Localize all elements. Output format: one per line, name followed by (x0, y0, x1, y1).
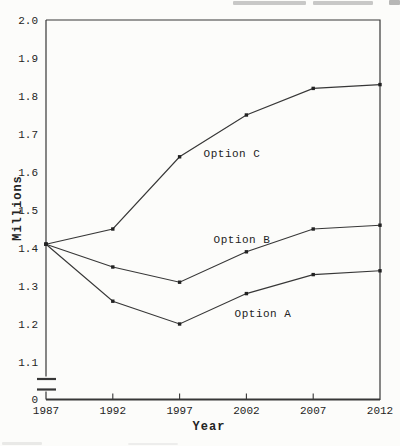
x-tick-label-2012: 2012 (367, 405, 393, 417)
series-point-option-a-2007 (312, 273, 315, 276)
series-point-option-c-1997 (178, 155, 181, 158)
y-axis-title: Millions (11, 175, 25, 241)
series-point-option-a-2012 (378, 269, 381, 272)
y-tick-label-2.0: 2.0 (18, 15, 38, 27)
series-point-option-b-2007 (312, 227, 315, 230)
y-tick-label-1.2: 1.2 (18, 319, 38, 331)
series-line-option-c (46, 85, 380, 245)
x-tick-label-1997: 1997 (166, 405, 192, 417)
y-tick-label-1.9: 1.9 (18, 53, 38, 65)
series-point-option-b-1997 (178, 281, 181, 284)
x-tick-label-2007: 2007 (300, 405, 326, 417)
series-point-option-a-1987 (44, 243, 47, 246)
y-tick-label-1.4: 1.4 (18, 243, 38, 255)
y-tick-label-1.1: 1.1 (18, 357, 38, 369)
x-tick-label-1992: 1992 (100, 405, 126, 417)
y-tick-label-1.3: 1.3 (18, 281, 38, 293)
y-tick-label-1.7: 1.7 (18, 129, 38, 141)
x-tick-label-2002: 2002 (233, 405, 259, 417)
series-point-option-c-2012 (378, 83, 381, 86)
series-point-option-a-2002 (245, 292, 248, 295)
series-point-option-b-2012 (378, 224, 381, 227)
series-point-option-c-1992 (111, 227, 114, 230)
series-point-option-a-1997 (178, 322, 181, 325)
plot-frame (46, 20, 380, 400)
series-point-option-c-2007 (312, 87, 315, 90)
population-projection-line-chart: 2.01.91.81.71.61.51.41.31.21.10198719921… (0, 0, 400, 446)
series-point-option-a-1992 (111, 300, 114, 303)
series-label-option-b: Option B (214, 234, 271, 246)
y-tick-label-0: 0 (31, 394, 38, 406)
series-point-option-b-1992 (111, 265, 114, 268)
series-label-option-c: Option C (204, 148, 261, 160)
series-point-option-c-2002 (245, 113, 248, 116)
series-line-option-a (46, 244, 380, 324)
x-tick-label-1987: 1987 (33, 405, 59, 417)
x-axis-title: Year (193, 420, 226, 434)
series-point-option-b-2002 (245, 250, 248, 253)
series-label-option-a: Option A (235, 308, 292, 320)
scanned-figure-page: 2.01.91.81.71.61.51.41.31.21.10198719921… (0, 0, 400, 446)
y-tick-label-1.8: 1.8 (18, 91, 38, 103)
